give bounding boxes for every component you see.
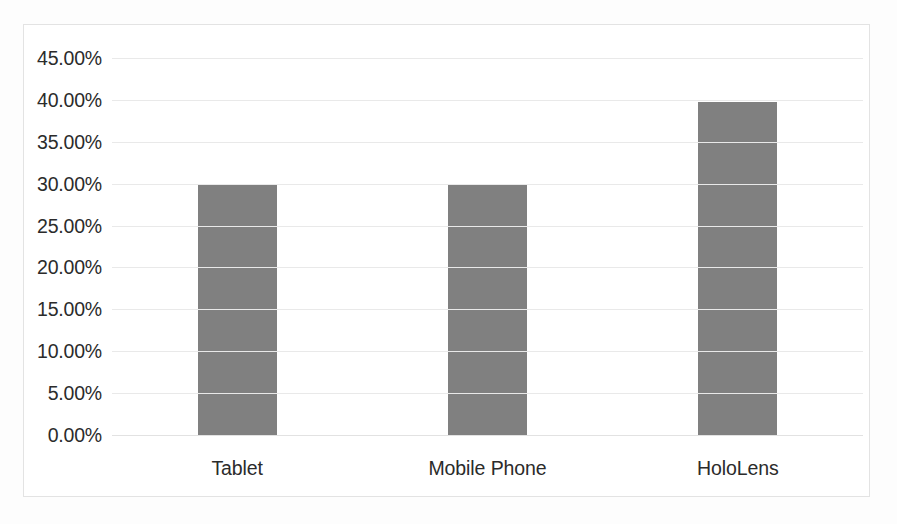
y-axis-tick-label: 25.00% — [24, 214, 102, 237]
y-axis-tick-label: 10.00% — [24, 340, 102, 363]
y-axis-tick-label: 15.00% — [24, 298, 102, 321]
y-axis-tick-label: 40.00% — [24, 88, 102, 111]
y-axis-tick-label: 5.00% — [24, 382, 102, 405]
chart-plot-container: 45.00%40.00%35.00%30.00%25.00%20.00%15.0… — [24, 25, 869, 496]
x-axis-category-label: HoloLens — [697, 457, 779, 480]
y-axis-tick-label: 30.00% — [24, 172, 102, 195]
x-axis-category-label: Mobile Phone — [428, 457, 546, 480]
x-axis: TabletMobile PhoneHoloLens — [112, 25, 863, 496]
y-axis-tick-label: 45.00% — [24, 47, 102, 70]
y-axis: 45.00%40.00%35.00%30.00%25.00%20.00%15.0… — [24, 25, 108, 496]
y-axis-tick-label: 20.00% — [24, 256, 102, 279]
y-axis-tick-label: 35.00% — [24, 130, 102, 153]
y-axis-tick-label: 0.00% — [24, 424, 102, 447]
chart-frame: 45.00%40.00%35.00%30.00%25.00%20.00%15.0… — [23, 24, 870, 497]
x-axis-category-label: Tablet — [211, 457, 262, 480]
